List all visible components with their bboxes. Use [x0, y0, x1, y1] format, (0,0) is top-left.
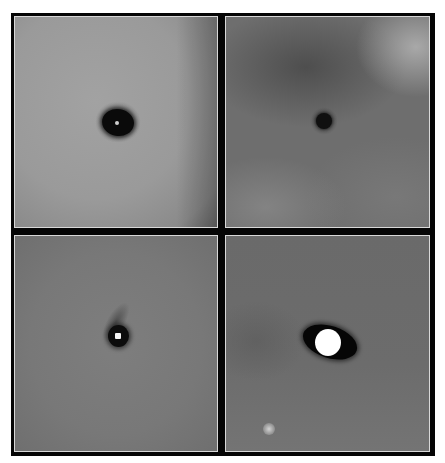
panel-top-right	[225, 16, 430, 228]
panel-bottom-right	[225, 235, 430, 452]
dark-core	[316, 113, 332, 129]
faint-point-source	[263, 423, 275, 435]
panel-top-left	[14, 16, 218, 228]
bright-point	[115, 333, 121, 339]
central-point	[115, 121, 119, 125]
bright-core	[315, 329, 341, 356]
panel-bottom-left	[14, 235, 218, 452]
